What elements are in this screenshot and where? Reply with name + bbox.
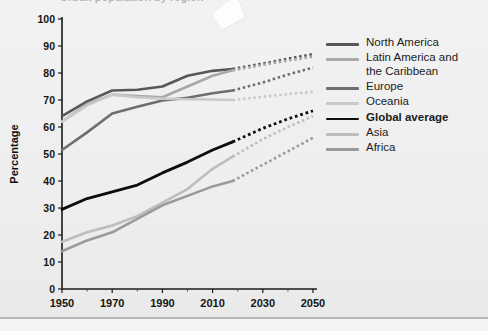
legend-item-label: Europe — [366, 80, 403, 93]
series-line-3 — [62, 95, 233, 122]
legend-swatch-icon — [326, 133, 359, 136]
y-axis-title: Percentage — [8, 124, 20, 183]
series-line-0 — [62, 69, 233, 116]
legend-item-oceania[interactable]: Oceania — [326, 95, 486, 108]
y-axis-tick-label: 80 — [43, 67, 55, 79]
series-projection-0 — [233, 54, 313, 69]
legend-item-europe[interactable]: Europe — [326, 80, 486, 93]
page-footer-area — [0, 319, 488, 331]
series-line-4 — [62, 142, 233, 210]
series-projection-3 — [233, 92, 313, 100]
legend-item-label: North America — [366, 36, 439, 49]
legend-item-latin-america-and-the-caribbean[interactable]: Latin America and the Caribbean — [326, 51, 486, 78]
chart-legend: North AmericaLatin America and the Carib… — [326, 36, 486, 157]
legend-item-label: Asia — [366, 126, 388, 139]
series-projection-2 — [233, 68, 313, 91]
chart-axes — [62, 17, 317, 289]
series-projection-6 — [233, 138, 313, 181]
y-axis-tick-label: 70 — [43, 94, 55, 106]
legend-item-label: Global average — [366, 111, 448, 124]
legend-item-africa[interactable]: Africa — [326, 141, 486, 154]
x-axis-tick-label: 2010 — [200, 297, 224, 309]
y-axis-tick-label: 20 — [43, 229, 55, 241]
y-axis-tick-label: 30 — [43, 202, 55, 214]
legend-item-label: Oceania — [366, 95, 409, 108]
legend-swatch-icon — [326, 43, 359, 46]
x-axis-tick-label: 1990 — [150, 297, 174, 309]
y-axis-tick-label: 60 — [43, 121, 55, 133]
x-axis-tick-label: 1950 — [50, 297, 74, 309]
legend-item-label: Latin America and the Caribbean — [366, 51, 458, 78]
series-line-6 — [62, 181, 233, 251]
y-axis-tick-label: 100 — [37, 13, 55, 25]
y-axis-tick-label: 0 — [49, 283, 55, 295]
legend-swatch-icon — [326, 87, 359, 90]
series-line-1 — [62, 70, 233, 121]
legend-item-north-america[interactable]: North America — [326, 36, 486, 49]
legend-item-label: Africa — [366, 141, 395, 154]
legend-swatch-icon — [326, 118, 359, 121]
y-axis-tick-label: 10 — [43, 256, 55, 268]
y-axis-tick-label: 40 — [43, 175, 55, 187]
x-axis-tick-label: 2050 — [301, 297, 325, 309]
x-axis-tick-label: 1970 — [100, 297, 124, 309]
series-projection-1 — [233, 57, 313, 71]
legend-item-global-average[interactable]: Global average — [326, 111, 486, 124]
y-axis-tick-label: 90 — [43, 40, 55, 52]
legend-swatch-icon — [326, 58, 359, 61]
x-axis-tick-label: 2030 — [251, 297, 275, 309]
series-projection-4 — [233, 111, 313, 142]
y-axis-tick-label: 50 — [43, 148, 55, 160]
legend-swatch-icon — [326, 102, 359, 105]
legend-swatch-icon — [326, 148, 359, 151]
legend-item-asia[interactable]: Asia — [326, 126, 486, 139]
